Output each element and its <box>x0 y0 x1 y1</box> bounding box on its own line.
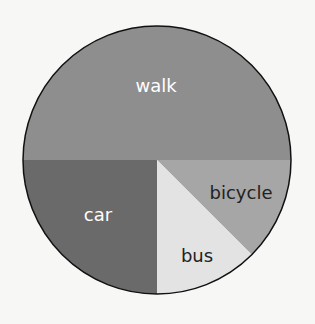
label-walk: walk <box>135 75 177 96</box>
slice-car <box>23 160 157 294</box>
label-bus: bus <box>181 245 213 266</box>
label-bicycle: bicycle <box>210 182 273 203</box>
label-car: car <box>84 204 113 225</box>
pie-chart: walk car bicycle bus <box>0 0 315 324</box>
